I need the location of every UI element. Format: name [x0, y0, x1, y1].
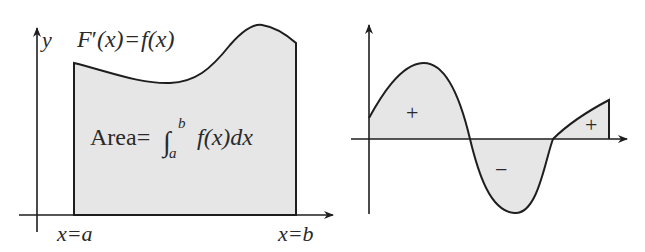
positive-region-sign-2: +	[585, 112, 597, 137]
x-label-b: x=b	[277, 221, 314, 246]
integral-upper-limit: b	[178, 115, 186, 131]
svg-text:f(x)dx: f(x)dx	[197, 124, 253, 150]
right-diagram: + − +	[351, 25, 627, 214]
left-diagram: y F′(x)=f(x) Area= ∫ b a f(x)dx x=a x=b	[19, 25, 333, 246]
integral-lower-limit: a	[169, 145, 177, 161]
figure-canvas: y F′(x)=f(x) Area= ∫ b a f(x)dx x=a x=b …	[0, 0, 645, 252]
x-label-a: x=a	[56, 221, 93, 246]
y-axis-label: y	[40, 27, 52, 52]
svg-text:Area=: Area=	[90, 124, 150, 150]
positive-region-sign: +	[406, 100, 418, 125]
derivative-equation: F′(x)=f(x)	[76, 26, 174, 52]
signed-area-region	[369, 63, 609, 213]
negative-region-sign: −	[495, 157, 507, 182]
